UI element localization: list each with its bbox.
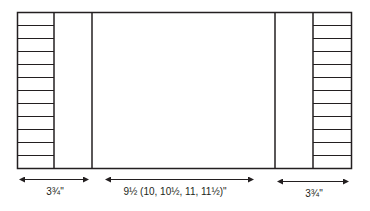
outer-outline — [18, 13, 352, 169]
center-width-label: 9½ (10, 10½, 11, 11½)" — [123, 186, 226, 197]
left-width-label: 3¾" — [46, 186, 63, 197]
left-stripes — [18, 26, 55, 156]
right-width-label: 3¾" — [305, 188, 322, 199]
schematic-diagram — [0, 0, 370, 211]
right-stripes — [313, 26, 352, 156]
